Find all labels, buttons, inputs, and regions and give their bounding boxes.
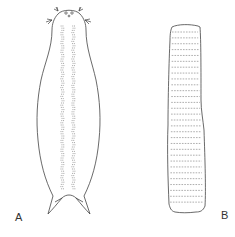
panel-label-a: A — [15, 211, 22, 223]
panel-b-segment-bands — [170, 32, 203, 202]
eye-spot-icon — [68, 15, 70, 17]
figure-canvas — [0, 0, 235, 237]
tentacle-side-right-icon — [85, 19, 91, 24]
panel-a-dotted-columns — [60, 26, 75, 189]
tentacle-tuft-left-icon — [54, 7, 58, 11]
panel-label-b: B — [221, 209, 228, 221]
panel-a-specimen — [37, 10, 100, 214]
tentacle-side-left-icon — [46, 19, 52, 24]
eye-spot-icon — [65, 12, 67, 14]
eye-spot-icon — [71, 12, 73, 14]
panel-a-body-outline — [37, 10, 100, 214]
tentacle-tuft-right-icon — [79, 7, 83, 11]
